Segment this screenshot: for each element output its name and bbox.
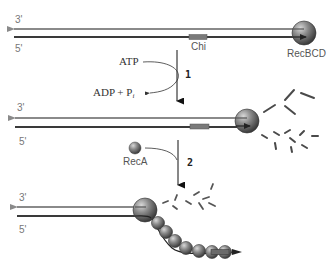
reca-filament bbox=[150, 216, 242, 259]
step-1-number: 1 bbox=[185, 69, 191, 80]
reca-protein-icon bbox=[129, 142, 141, 154]
step-1: ATP ADP + Pi 1 bbox=[93, 50, 191, 101]
recbcd-label: RecBCD bbox=[287, 48, 326, 59]
recbcd-enzyme-icon bbox=[133, 198, 157, 222]
five-prime-label: 5' bbox=[19, 136, 27, 147]
recbcd-enzyme-icon bbox=[235, 109, 259, 133]
dna-fragments-small bbox=[262, 130, 318, 152]
dna-fragments-large bbox=[264, 90, 314, 114]
panel-2: 3' 5' bbox=[15, 90, 318, 152]
dna-fragments-small bbox=[163, 184, 215, 209]
reca-loading-curve bbox=[145, 148, 177, 160]
recbcd-enzyme-icon bbox=[292, 21, 316, 45]
reca-bead-icon bbox=[180, 242, 193, 255]
reca-label: RecA bbox=[123, 156, 148, 167]
step-2-number: 2 bbox=[187, 157, 193, 168]
adp-pi-label: ADP + Pi bbox=[93, 86, 134, 100]
chi-site-box bbox=[190, 124, 209, 129]
chi-label: Chi bbox=[191, 41, 206, 52]
five-prime-label: 5' bbox=[19, 224, 27, 235]
five-prime-label: 5' bbox=[15, 43, 23, 54]
strand-end-arrow-icon bbox=[232, 249, 242, 255]
chi-site-box bbox=[189, 35, 207, 40]
reca-bead-icon bbox=[193, 245, 206, 258]
three-prime-label: 3' bbox=[19, 192, 27, 203]
three-prime-label: 3' bbox=[15, 14, 23, 25]
atp-hydrolysis-curve bbox=[143, 62, 178, 93]
atp-label: ATP bbox=[119, 55, 139, 67]
panel-1: 3' Chi 5' RecBCD bbox=[14, 14, 326, 59]
chi-site-box bbox=[211, 250, 229, 255]
three-prime-label: 3' bbox=[17, 102, 25, 113]
diagram-canvas: 3' Chi 5' RecBCD ATP ADP + Pi 1 3' 5' bbox=[0, 0, 334, 269]
step-2: RecA 2 bbox=[123, 140, 193, 185]
reca-bead-icon bbox=[169, 235, 182, 248]
panel-3: 3' 5' bbox=[17, 184, 242, 259]
